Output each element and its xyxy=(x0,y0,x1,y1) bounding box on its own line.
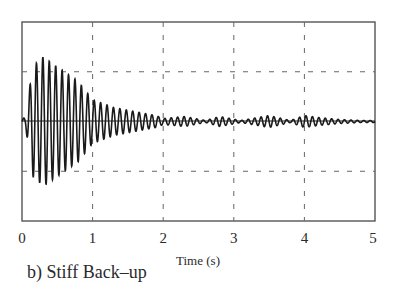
x-axis-label: Time (s) xyxy=(176,254,220,267)
x-tick-5: 5 xyxy=(369,231,377,246)
x-tick-2: 2 xyxy=(159,231,167,246)
x-tick-4: 4 xyxy=(301,231,309,246)
x-tick-0: 0 xyxy=(18,231,26,246)
x-tick-1: 1 xyxy=(89,231,97,246)
figure-caption: b) Stiff Back–up xyxy=(27,263,147,281)
x-tick-3: 3 xyxy=(230,231,238,246)
